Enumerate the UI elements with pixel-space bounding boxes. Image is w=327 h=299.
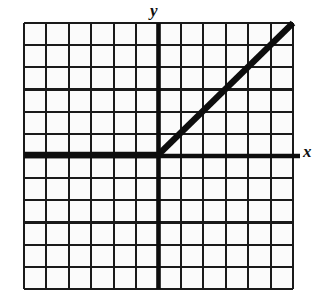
y-axis-label: y [150, 2, 158, 19]
coordinate-grid-plot [0, 0, 327, 299]
graph-figure: y x [0, 0, 327, 299]
x-axis-label: x [303, 143, 312, 160]
